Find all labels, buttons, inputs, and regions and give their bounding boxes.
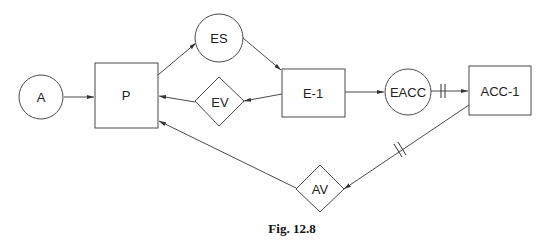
node-p-label: P [122, 88, 131, 103]
flow-diagram: A P ES EV E-1 EACC ACC-1 AV Fig. 12.8 [0, 0, 550, 243]
edge-acc1-to-av [344, 105, 469, 189]
node-a-label: A [37, 90, 46, 105]
edge-e1-to-ev [244, 94, 282, 101]
node-eacc: EACC [385, 69, 431, 115]
edge-ev-to-p [159, 96, 195, 102]
node-e1: E-1 [282, 69, 345, 117]
edge-av-to-p [159, 121, 296, 188]
node-ev: EV [195, 77, 244, 126]
node-e1-label: E-1 [303, 86, 323, 101]
node-acc1-label: ACC-1 [480, 84, 519, 99]
node-acc1: ACC-1 [469, 66, 531, 115]
node-av: AV [296, 165, 344, 212]
node-eacc-label: EACC [390, 85, 426, 100]
node-es-label: ES [210, 31, 228, 46]
edge-es-to-e1 [243, 38, 281, 70]
node-a: A [19, 75, 63, 119]
node-p: P [95, 63, 158, 128]
edge-p-to-es [158, 43, 196, 75]
figure-caption: Fig. 12.8 [268, 221, 316, 236]
node-es: ES [195, 14, 243, 62]
node-av-label: AV [312, 182, 329, 197]
node-ev-label: EV [211, 95, 229, 110]
